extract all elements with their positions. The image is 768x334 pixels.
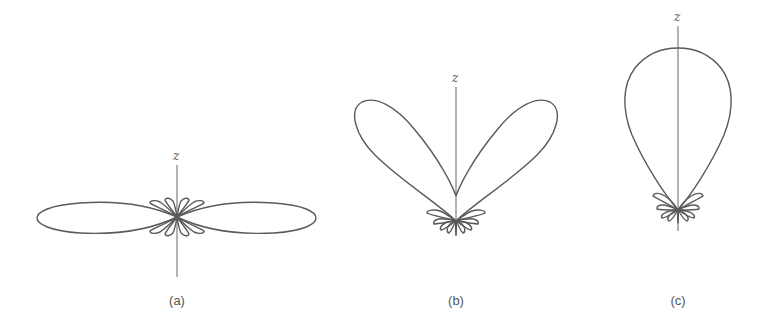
z-axis-label-a: z xyxy=(172,149,180,163)
main-lobe-left-b xyxy=(355,100,456,221)
z-axis-label-c: z xyxy=(673,10,681,24)
caption-c: (c) xyxy=(670,293,685,308)
panel-a: z xyxy=(37,149,316,277)
radiation-patterns-figure: z z xyxy=(0,0,768,334)
main-lobe-right-b xyxy=(456,100,557,221)
caption-a: (a) xyxy=(169,293,185,308)
panel-c: z xyxy=(625,10,731,231)
z-axis-label-b: z xyxy=(451,71,459,85)
panel-b: z xyxy=(355,71,558,236)
caption-b: (b) xyxy=(448,293,464,308)
